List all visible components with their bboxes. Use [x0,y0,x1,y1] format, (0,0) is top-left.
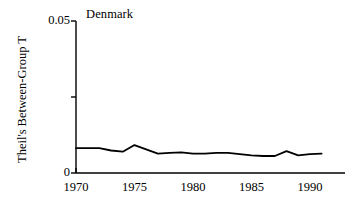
x-tick-label: 1980 [173,180,213,195]
data-line-denmark [76,145,322,156]
x-tick-label: 1975 [114,180,154,195]
y-axis-ticks [71,21,76,173]
y-tick-label-zero: 0 [28,165,70,180]
data-series-group [76,145,322,156]
chart-container: Denmark Theil's Between-Group T 0.05 0 1… [0,0,351,207]
y-axis-label: Theil's Between-Group T [15,15,30,185]
chart-title: Denmark [86,7,133,22]
x-tick-label: 1990 [290,180,330,195]
x-tick-label: 1970 [56,180,96,195]
y-tick-label-top: 0.05 [28,13,70,28]
x-tick-label: 1985 [231,180,271,195]
